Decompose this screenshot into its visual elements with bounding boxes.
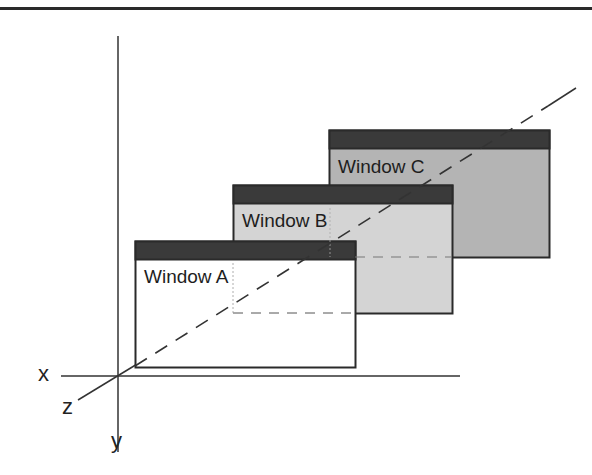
y-axis-label: y [111, 430, 122, 452]
window-b-label: Window B [242, 211, 328, 231]
z-axis-label: z [62, 396, 73, 418]
window-b-prefix: Window [242, 210, 310, 231]
window-c-prefix: Window [338, 156, 406, 177]
z-axis-depth-tail [548, 88, 576, 106]
window-stack-diagram [0, 0, 592, 475]
window-a [136, 242, 356, 368]
window-a-letter: A [216, 266, 229, 287]
window-a-label: Window A [144, 267, 229, 287]
x-axis-label: x [38, 363, 49, 385]
window-b-letter: B [315, 210, 328, 231]
window-a-prefix: Window [144, 266, 212, 287]
window-c-letter: C [411, 156, 425, 177]
window-c-label: Window C [338, 157, 425, 177]
